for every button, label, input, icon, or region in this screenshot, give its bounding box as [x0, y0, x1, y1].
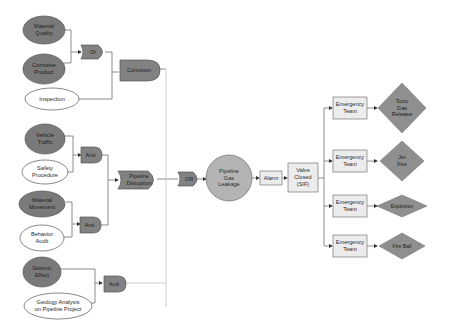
event-seismic-effect — [23, 257, 61, 287]
event-material-quality — [23, 16, 65, 44]
gate-or-main — [178, 172, 197, 186]
fault-tree-diagram — [0, 0, 450, 330]
emergency-team-3 — [333, 195, 367, 217]
gate-pipeline-disruption — [118, 171, 154, 189]
consequence-toxic-gas-release — [378, 83, 426, 133]
event-behavior-audit — [20, 225, 64, 251]
event-inspection — [25, 88, 79, 110]
event-geology-analysis — [24, 293, 92, 319]
gate-corrosion — [120, 60, 160, 81]
event-corrosive-product — [23, 54, 65, 84]
barrier-alarm — [260, 171, 282, 185]
barrier-valve-closed — [288, 163, 318, 192]
consequence-jet-fire — [380, 141, 424, 181]
gate-and-1 — [81, 147, 102, 163]
consequence-fire-ball — [379, 233, 425, 259]
event-material-movement — [19, 191, 65, 217]
top-event-pipeline-gas-leakage — [206, 155, 252, 201]
emergency-team-4 — [333, 235, 367, 257]
gate-and-2 — [80, 217, 101, 233]
event-vehicle-traffic — [25, 124, 65, 154]
event-safety-procedure — [22, 160, 68, 184]
emergency-team-1 — [333, 97, 367, 119]
consequence-explosion — [377, 195, 427, 217]
emergency-team-2 — [333, 150, 367, 172]
gate-or-1 — [81, 45, 103, 59]
gate-and-3 — [104, 276, 126, 292]
